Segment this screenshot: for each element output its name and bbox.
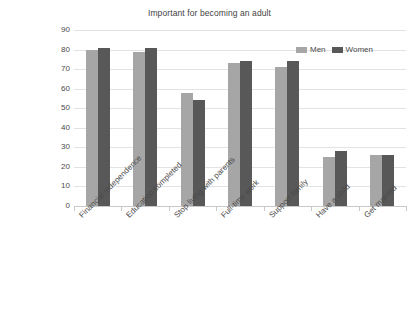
- y-axis-tick-label: 20: [36, 163, 70, 171]
- x-axis-tick: [121, 206, 122, 211]
- x-axis-tick: [311, 206, 312, 211]
- x-axis-tick: [406, 206, 407, 211]
- y-axis-tick-labels: 9080706050403020100: [34, 30, 70, 206]
- bar-group: [86, 30, 110, 206]
- y-axis-tick-label: 80: [36, 46, 70, 54]
- bar-group: [370, 30, 394, 206]
- legend-swatch-icon: [332, 47, 343, 53]
- y-axis-tick-label: 30: [36, 143, 70, 151]
- bar-chart: Important for becoming an adult 90807060…: [0, 0, 419, 318]
- legend-swatch-icon: [296, 47, 307, 53]
- plot-area: [74, 30, 406, 206]
- bar-men: [181, 93, 193, 206]
- y-axis-tick-label: 90: [36, 26, 70, 34]
- y-axis-tick-label: 0: [36, 202, 70, 210]
- legend-entry-women: Women: [332, 45, 373, 54]
- y-axis-tick-label: 70: [36, 65, 70, 73]
- x-axis-tick: [74, 206, 75, 211]
- legend-label: Women: [346, 45, 373, 54]
- x-axis-tick: [216, 206, 217, 211]
- chart-title: Important for becoming an adult: [0, 8, 419, 18]
- gridline: [74, 206, 406, 207]
- y-axis-tick-label: 10: [36, 182, 70, 190]
- bar-men: [86, 50, 98, 206]
- bar-men: [228, 63, 240, 206]
- bar-group: [323, 30, 347, 206]
- bar-group: [228, 30, 252, 206]
- y-axis-tick-label: 40: [36, 124, 70, 132]
- y-axis-tick-label: 60: [36, 85, 70, 93]
- bar-group: [275, 30, 299, 206]
- bar-groups: [74, 30, 406, 206]
- x-axis-tick: [264, 206, 265, 211]
- x-axis-tick: [169, 206, 170, 211]
- y-axis-tick-label: 50: [36, 104, 70, 112]
- legend-label: Men: [310, 45, 326, 54]
- x-axis-tick: [359, 206, 360, 211]
- bar-men: [275, 67, 287, 206]
- bar-group: [181, 30, 205, 206]
- legend-entry-men: Men: [296, 45, 326, 54]
- chart-legend: MenWomen: [296, 45, 373, 54]
- bar-men: [133, 52, 145, 206]
- bar-group: [133, 30, 157, 206]
